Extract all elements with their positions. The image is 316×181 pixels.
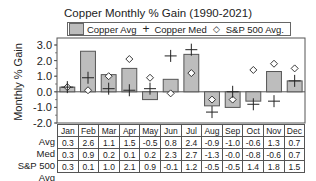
- month-header: Feb: [78, 125, 99, 137]
- row-label-avg: Avg: [0, 136, 55, 148]
- table-cell: 2.6: [78, 137, 99, 149]
- table-cell: -0.6: [263, 149, 284, 161]
- row-label-med: Med: [0, 148, 55, 160]
- table-cell: -0.5: [202, 161, 223, 173]
- table-cell: 0.8: [160, 137, 181, 149]
- bar-copper-avg: [267, 72, 282, 92]
- table-cell: 0.2: [99, 149, 120, 161]
- table-cell: 0.2: [140, 149, 161, 161]
- table-cell: 2.7: [181, 149, 202, 161]
- table-cell: 0.3: [58, 137, 79, 149]
- table-cell: 1.8: [263, 161, 284, 173]
- data-table: JanFebMarAprMayJunJulAugSepOctNovDec0.32…: [57, 124, 305, 173]
- table-cell: 1.5: [119, 137, 140, 149]
- table-cell: -0.5: [140, 137, 161, 149]
- diamond-marker-sp500: [250, 66, 257, 73]
- table-cell: 1.4: [243, 161, 264, 173]
- table-row: 0.30.11.02.10.9-0.11.2-0.5-0.51.41.81.5: [58, 161, 305, 173]
- table-cell: -1.0: [222, 137, 243, 149]
- diamond-marker-sp500: [147, 74, 154, 81]
- month-header: Sep: [222, 125, 243, 137]
- table-cell: 0.1: [78, 161, 99, 173]
- month-header: Oct: [243, 125, 264, 137]
- y-tick-label: 0.0: [37, 86, 52, 98]
- table-cell: 0.1: [119, 149, 140, 161]
- table-cell: 1.2: [181, 161, 202, 173]
- diamond-marker-sp500: [271, 60, 278, 67]
- table-cell: -1.3: [202, 149, 223, 161]
- month-header: Apr: [119, 125, 140, 137]
- month-header: Mar: [99, 125, 120, 137]
- table-cell: 0.3: [58, 149, 79, 161]
- month-header: May: [140, 125, 161, 137]
- table-row: 0.30.90.20.10.22.32.7-1.3-0.0-0.8-0.60.7: [58, 149, 305, 161]
- diamond-marker-sp500: [126, 56, 133, 63]
- table-cell: 2.1: [119, 161, 140, 173]
- month-header: Jan: [58, 125, 79, 137]
- table-cell: 0.9: [140, 161, 161, 173]
- table-cell: -0.5: [222, 161, 243, 173]
- y-tick-label: 3.0: [37, 39, 52, 51]
- diamond-marker-sp500: [291, 65, 298, 72]
- month-header: Jun: [160, 125, 181, 137]
- table-row-labels: Avg Med S&P 500 Avg: [0, 124, 55, 172]
- table-cell: 1.3: [263, 137, 284, 149]
- month-header: Nov: [263, 125, 284, 137]
- y-tick-label: -1.0: [33, 101, 52, 113]
- table-cell: 0.7: [284, 137, 305, 149]
- table-row: 0.32.61.11.5-0.50.82.4-0.9-1.0-0.61.30.7: [58, 137, 305, 149]
- month-header: Jul: [181, 125, 202, 137]
- table-cell: -0.6: [243, 137, 264, 149]
- table-cell: -0.1: [160, 161, 181, 173]
- table-cell: -0.9: [202, 137, 223, 149]
- table-cell: 2.3: [160, 149, 181, 161]
- table-cell: 0.3: [58, 161, 79, 173]
- row-label-sp500: S&P 500 Avg: [0, 160, 55, 172]
- table-cell: 2.4: [181, 137, 202, 149]
- table-cell: -0.8: [243, 149, 264, 161]
- y-tick-label: 1.0: [37, 70, 52, 82]
- table-cell: 0.7: [284, 149, 305, 161]
- month-header: Aug: [202, 125, 223, 137]
- table-cell: 0.9: [78, 149, 99, 161]
- bar-copper-avg: [81, 51, 96, 92]
- table-cell: 1.5: [284, 161, 305, 173]
- y-tick-label: 2.0: [37, 55, 52, 67]
- month-header: Dec: [284, 125, 305, 137]
- table-cell: 1.0: [99, 161, 120, 173]
- table-cell: -0.0: [222, 149, 243, 161]
- table-cell: 1.1: [99, 137, 120, 149]
